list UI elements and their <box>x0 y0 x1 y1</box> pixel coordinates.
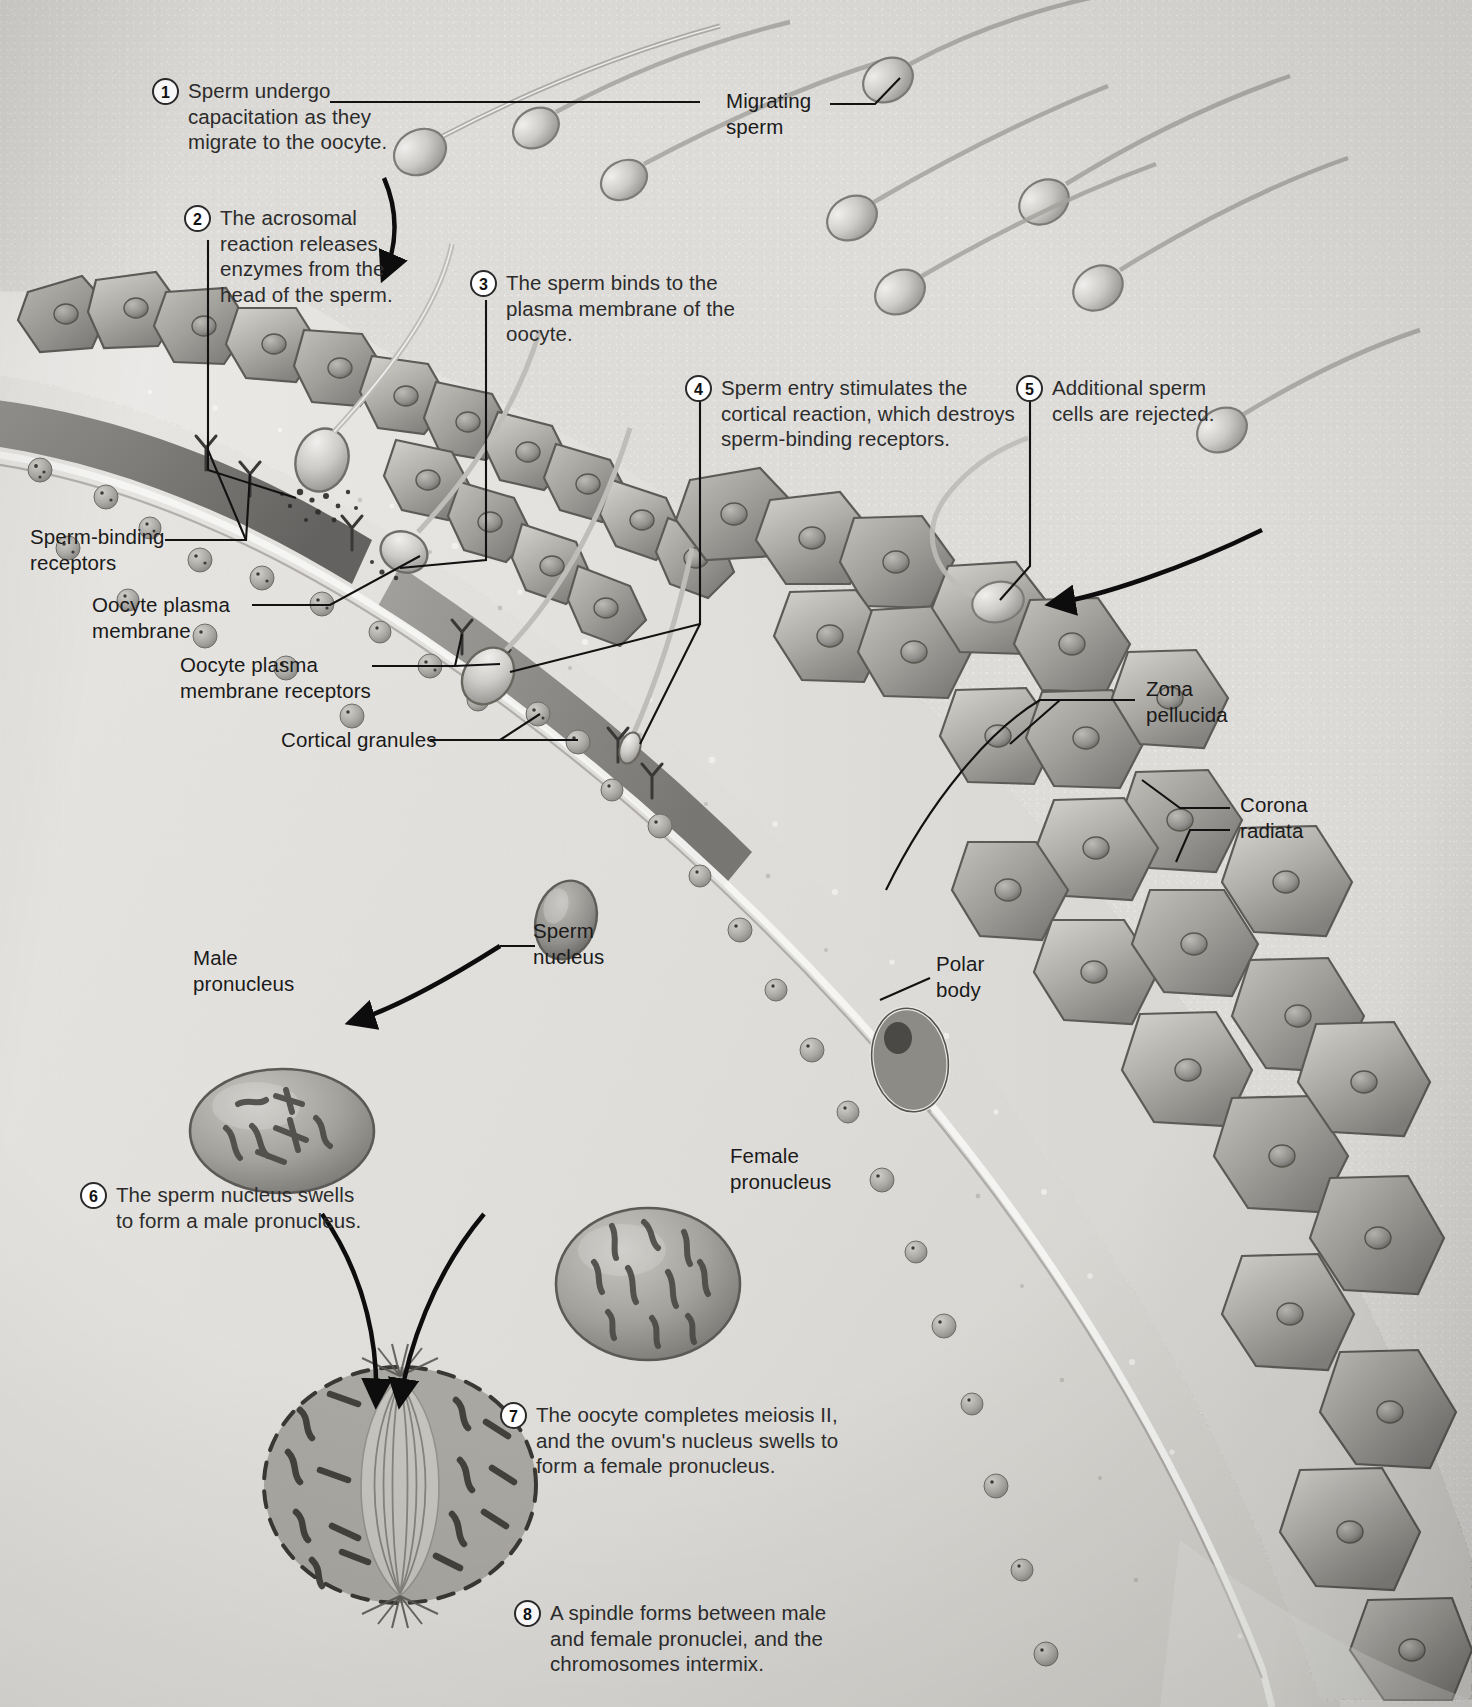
edge-shading-overlay <box>0 0 1472 1707</box>
figure-canvas: 1 Sperm undergo capacitation as they mig… <box>0 0 1472 1707</box>
